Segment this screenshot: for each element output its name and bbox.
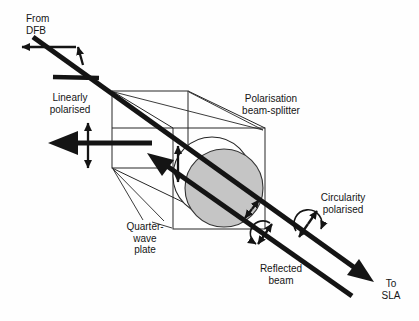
label-linearly-polarised: Linearly polarised	[38, 92, 102, 115]
rejected-beam-arrowhead	[48, 131, 78, 155]
reflected-beam-arrowhead	[147, 153, 174, 176]
label-quarter-wave-plate: Quarter- wave plate	[117, 221, 173, 256]
input-beam-tee-bar	[53, 77, 99, 78]
dfb-vertical-polarisation-arrow	[78, 47, 83, 65]
label-from-dfb: From DFB	[26, 13, 66, 36]
cube-edge-top-left	[112, 91, 173, 128]
optical-schematic-figure: From DFB Linearly polarised Polarisation…	[0, 0, 419, 321]
circular-polarisation-arrow-ret-b	[258, 234, 265, 244]
label-reflected-beam: Reflected beam	[251, 263, 311, 286]
label-to-sla: To SLA	[371, 278, 411, 301]
label-circularity-polarised: Circularity polarised	[311, 192, 375, 215]
label-polarisation-beam-splitter: Polarisation beam-splitter	[230, 93, 312, 116]
diagram-canvas	[0, 0, 419, 321]
circular-polarisation-arrow-ret-a	[265, 224, 272, 234]
main-beam	[33, 37, 355, 268]
